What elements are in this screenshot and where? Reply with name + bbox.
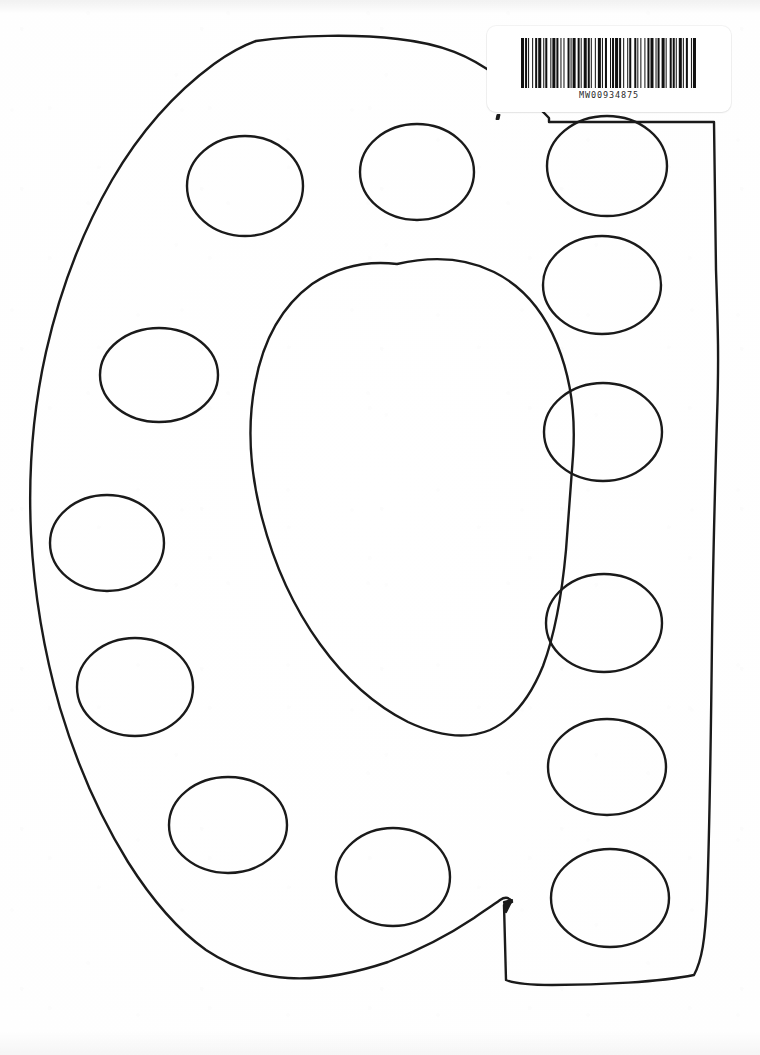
dot-right-lower-2 [548,719,666,815]
dot-top-left [187,136,303,236]
barcode-icon [521,38,697,88]
dot-right-mid [544,383,662,481]
dot-right-upper [543,236,661,334]
letter-q-artwork [0,0,760,1055]
dot-bottom-left [169,777,287,873]
dot-bottom-center [336,828,450,926]
barcode-number: MW00934875 [579,91,639,100]
letter-outline [30,36,718,985]
dot-top-right [547,116,667,216]
dot-right-bottom [551,849,669,947]
dot-right-lower [546,574,662,672]
dot-left-mid [50,495,164,591]
scanned-page: MW00934875 Polka dot letter Q template [0,0,760,1055]
dot-top-center [360,124,474,220]
dot-left-lower [77,638,193,736]
polka-dot-group [50,116,669,947]
letter-counter-outline [251,259,574,735]
dot-left-upper [100,328,218,422]
barcode-sticker: MW00934875 [487,26,731,112]
letter-tail-notch [504,900,512,912]
